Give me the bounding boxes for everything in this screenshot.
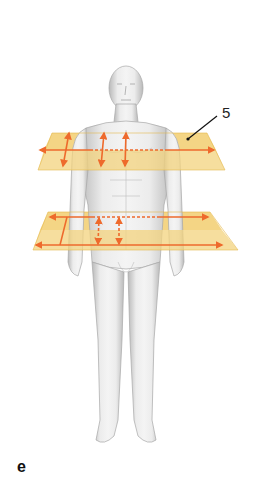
anatomy-figure <box>0 0 261 491</box>
panel-letter: e <box>17 458 26 476</box>
human-body <box>68 66 184 442</box>
callout-label: 5 <box>222 104 230 121</box>
